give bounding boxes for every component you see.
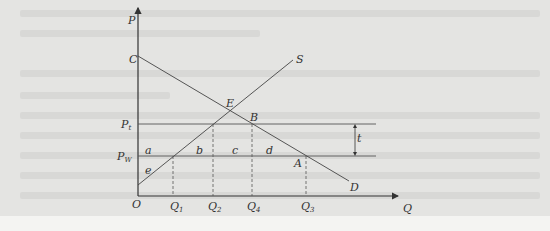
area-b-label: b [196, 144, 203, 157]
area-d-label: d [266, 144, 273, 157]
supply-label: S [296, 53, 304, 66]
tariff-diagram: P Q O C S D E B A Pt PW a b c d e t Q1 Q… [0, 0, 550, 231]
area-e-label: e [145, 164, 152, 177]
tariff-price-label: Pt [120, 118, 131, 132]
point-a-label: A [293, 157, 302, 170]
q1-label: Q1 [170, 200, 184, 214]
demand-label: D [349, 181, 359, 194]
area-a-label: a [145, 144, 152, 157]
point-c-label: C [129, 53, 138, 66]
q3-label: Q3 [301, 200, 315, 214]
area-c-label: c [232, 144, 238, 157]
demand-curve [138, 56, 349, 181]
world-price-label: PW [116, 150, 132, 164]
q2-label: Q2 [208, 200, 222, 214]
price-axis-label: P [127, 14, 136, 27]
origin-label: O [132, 198, 141, 211]
tariff-label: t [357, 132, 362, 145]
point-b-label: B [249, 111, 258, 124]
quantity-axis-label: Q [403, 202, 412, 215]
supply-curve [138, 60, 293, 185]
q4-label: Q4 [247, 200, 261, 214]
equilibrium-label: E [225, 97, 234, 110]
